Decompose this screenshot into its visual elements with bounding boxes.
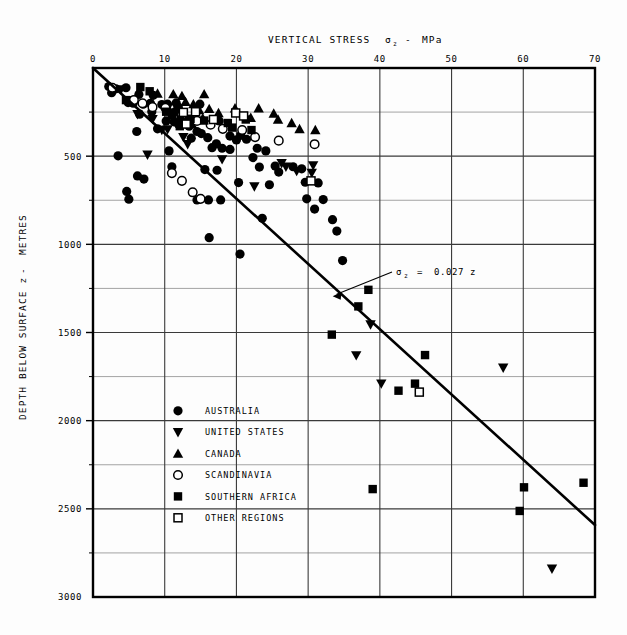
data-point xyxy=(332,227,341,236)
legend-label: UNITED STATES xyxy=(205,427,285,437)
data-point xyxy=(394,386,402,394)
data-point xyxy=(232,135,241,144)
data-point xyxy=(124,195,133,204)
legend-label: OTHER REGIONS xyxy=(205,513,285,523)
data-point xyxy=(310,140,319,149)
data-point xyxy=(209,115,217,123)
data-point xyxy=(328,330,336,338)
x-axis-tick-label: 20 xyxy=(230,54,242,64)
data-point xyxy=(203,133,212,142)
data-point xyxy=(415,388,423,396)
y-axis-tick-label: 2000 xyxy=(58,416,82,426)
data-point xyxy=(225,145,234,154)
data-point xyxy=(182,120,190,128)
data-point xyxy=(274,167,283,176)
data-point xyxy=(132,127,141,136)
sigma-subscript-z: z xyxy=(393,40,397,48)
title-dash: - xyxy=(405,34,412,45)
data-point xyxy=(310,204,319,213)
data-point xyxy=(217,144,226,153)
data-point xyxy=(188,188,197,197)
legend-marker-filled-square xyxy=(174,492,182,500)
data-point xyxy=(122,187,131,196)
data-point xyxy=(319,195,328,204)
data-point xyxy=(307,177,315,185)
data-point xyxy=(205,233,214,242)
chart-title-text: VERTICAL STRESS xyxy=(268,34,370,45)
data-point xyxy=(234,178,243,187)
legend-marker-open-square xyxy=(174,514,182,522)
data-point xyxy=(247,126,255,134)
x-axis-tick-label: 50 xyxy=(446,54,458,64)
data-point xyxy=(328,215,337,224)
data-point xyxy=(364,286,372,294)
x-axis-tick-label: 0 xyxy=(90,54,96,64)
x-axis-tick-label: 40 xyxy=(374,54,386,64)
y-axis-label: DEPTH BELOW SURFACE z - METRES xyxy=(17,214,28,420)
annotation-equals: = xyxy=(417,267,423,277)
data-point xyxy=(212,166,221,175)
data-point xyxy=(192,108,200,116)
data-point xyxy=(255,162,264,171)
legend-marker-open-circle xyxy=(174,471,183,480)
title-unit-mpa: MPa xyxy=(422,34,442,45)
data-point xyxy=(302,194,311,203)
data-point xyxy=(579,479,587,487)
x-axis-tick-label: 30 xyxy=(302,54,314,64)
data-point xyxy=(114,151,123,160)
stress-depth-scatter-chart: VERTICAL STRESS σ z - MPa DEPTH BELOW SU… xyxy=(0,0,627,635)
y-axis-tick-label: 500 xyxy=(64,152,82,162)
chart-root: VERTICAL STRESS σ z - MPa DEPTH BELOW SU… xyxy=(0,0,627,635)
data-point xyxy=(265,180,274,189)
annotation-sigma: σ xyxy=(396,267,402,277)
data-point xyxy=(235,249,244,258)
legend-label: SCANDINAVIA xyxy=(205,470,272,480)
y-axis-tick-label: 1500 xyxy=(58,328,82,338)
legend-marker-filled-circle xyxy=(173,406,182,415)
data-point xyxy=(196,195,205,204)
y-axis-tick-label: 3000 xyxy=(58,592,82,602)
x-axis-tick-label: 70 xyxy=(589,54,601,64)
legend-label: CANADA xyxy=(205,449,242,459)
data-point xyxy=(138,99,147,108)
x-axis-tick-label: 60 xyxy=(517,54,529,64)
data-point xyxy=(232,109,240,117)
data-point xyxy=(274,136,283,145)
y-axis-label-unit: METRES xyxy=(17,214,28,255)
data-point xyxy=(145,87,153,95)
data-point xyxy=(164,146,173,155)
data-point xyxy=(178,177,187,186)
data-point xyxy=(216,195,225,204)
data-point xyxy=(253,144,262,153)
y-axis-label-dash: - xyxy=(17,267,28,274)
y-axis-label-main: DEPTH BELOW SURFACE z xyxy=(17,277,28,420)
legend-label: SOUTHERN AFRICA xyxy=(205,492,297,502)
data-point xyxy=(207,143,216,152)
data-point xyxy=(338,256,347,265)
legend-label: AUSTRALIA xyxy=(205,406,260,416)
x-axis-tick-label: 10 xyxy=(159,54,171,64)
sigma-symbol: σ xyxy=(385,34,392,45)
annotation-value: 0.027 z xyxy=(434,267,476,277)
data-point xyxy=(368,485,376,493)
data-point xyxy=(179,108,187,116)
data-point xyxy=(136,83,144,91)
data-point xyxy=(148,103,157,112)
data-point xyxy=(168,111,176,119)
data-point xyxy=(421,351,429,359)
data-point xyxy=(411,379,419,387)
data-point xyxy=(248,153,257,162)
data-point xyxy=(240,112,248,120)
data-point xyxy=(228,123,236,131)
data-point xyxy=(168,169,177,178)
annotation-sigma-subscript: z xyxy=(404,272,408,280)
data-point xyxy=(516,507,524,515)
y-axis-tick-label: 1000 xyxy=(58,240,82,250)
data-point xyxy=(261,146,270,155)
data-point xyxy=(238,126,247,135)
y-axis-tick-label: 2500 xyxy=(58,504,82,514)
data-point xyxy=(200,116,208,124)
data-point xyxy=(520,483,528,491)
data-point xyxy=(242,135,251,144)
data-point xyxy=(139,174,148,183)
